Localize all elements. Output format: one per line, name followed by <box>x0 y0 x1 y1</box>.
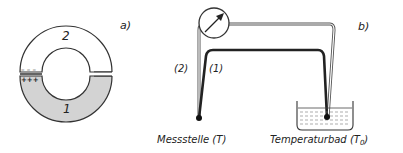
measuring-point-label: Messstelle (T) <box>157 134 226 145</box>
panel-a-tag: a) <box>120 19 131 32</box>
ring-diagram: – – – +++ 2 1 a) <box>20 19 131 122</box>
region-2-label: 2 <box>62 29 70 43</box>
measuring-junction <box>196 115 202 121</box>
negative-charges: – – – <box>21 66 36 74</box>
voltmeter-icon <box>199 8 229 38</box>
region-1-label: 1 <box>63 102 71 116</box>
thermocouple-circuit: (2) (1) b) Messstelle (T) Temperaturbad … <box>157 8 369 147</box>
positive-charges: +++ <box>21 76 39 84</box>
panel-b-tag: b) <box>358 20 369 33</box>
reference-junction <box>324 114 330 120</box>
temperature-bath-label: Temperaturbad (T0) <box>270 134 368 147</box>
wire-1-label: (1) <box>209 63 223 74</box>
wire-2-label: (2) <box>174 63 188 74</box>
thermocouple-diagram: – – – +++ 2 1 a) (2) (1) b) <box>0 0 403 153</box>
